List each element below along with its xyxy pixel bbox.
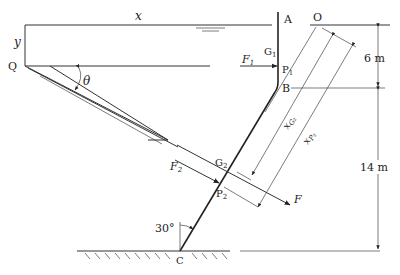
hydrostatic-wall-diagram: x y Q θ A O G1 P1 F1 B xG₂ xP₂ F F2 G [0, 0, 400, 275]
force-f-arrow [177, 145, 290, 205]
dim-14m-label: 14 m [360, 161, 388, 174]
xg2-label: xG₂ [280, 113, 298, 132]
point-c-label: C [176, 255, 184, 266]
point-o-label: O [313, 11, 322, 24]
free-surface-line [25, 25, 390, 31]
y-axis-label: y [13, 35, 21, 49]
xp2-label: xP₂ [300, 129, 318, 147]
theta-arc [75, 68, 81, 90]
dim-6m-label: 6 m [364, 52, 385, 65]
force-f1-label: F1 [241, 53, 254, 67]
angle-30-label: 30° [155, 222, 175, 235]
point-a-label: A [283, 13, 293, 26]
point-g1-label: G1 [264, 46, 276, 59]
force-f-label: F [293, 193, 302, 206]
angle-30-arc [180, 225, 193, 229]
xp2-tick [224, 187, 258, 207]
point-p1-label: P1 [282, 64, 293, 77]
xp2-dimension [258, 46, 352, 207]
x-axis-label: x [135, 9, 142, 23]
xg2-tick [237, 172, 251, 180]
o-reference-line [265, 27, 316, 112]
force-f2-label: F2 [169, 160, 183, 174]
inclined-plate-projection [25, 66, 178, 147]
ground-hatch [77, 251, 230, 259]
point-p2-label: P2 [216, 188, 227, 201]
theta-label: θ [83, 74, 91, 88]
point-q-label: Q [8, 60, 17, 73]
point-b-label: B [282, 82, 290, 95]
